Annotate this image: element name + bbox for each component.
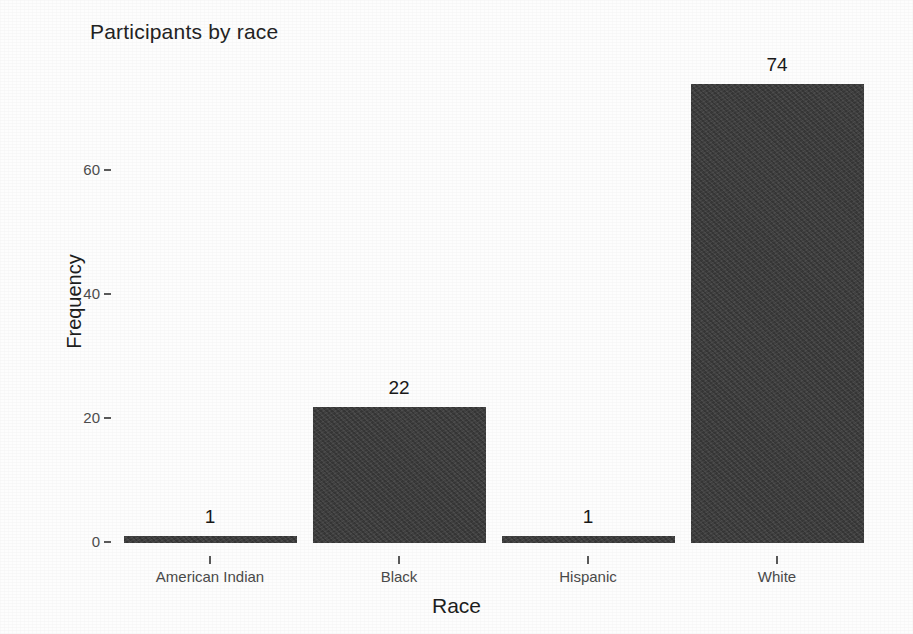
bar-chart-figure: Participants by race Frequency 0 20 40 6… — [0, 0, 913, 634]
y-axis-tick-mark-20 — [104, 417, 111, 419]
y-axis-tick-mark-40 — [104, 293, 111, 295]
y-axis-tick-mark-60 — [104, 169, 111, 171]
x-axis-tick-mark-black — [398, 556, 400, 564]
x-axis-tick-label-black: Black — [381, 568, 418, 585]
x-axis-tick-label-white: White — [758, 568, 796, 585]
x-axis-tick-label-hispanic: Hispanic — [559, 568, 617, 585]
x-axis-tick-mark-white — [776, 556, 778, 564]
y-axis-tick-label-20: 20 — [54, 409, 100, 426]
y-axis-tick-mark-0 — [104, 541, 111, 543]
x-axis-tick-label-american-indian: American Indian — [156, 568, 264, 585]
bar-value-label-black: 22 — [388, 377, 409, 399]
x-axis-tick-mark-american-indian — [209, 556, 211, 564]
y-axis-tick-label-60: 60 — [54, 161, 100, 178]
plot-area: 1 22 1 74 — [113, 18, 900, 543]
y-axis-tick-label-40: 40 — [54, 285, 100, 302]
bar-value-label-hispanic: 1 — [583, 506, 594, 528]
y-axis-tick-label-0: 0 — [54, 533, 100, 550]
x-axis-tick-mark-hispanic — [587, 556, 589, 564]
bar-white — [691, 84, 864, 543]
bar-value-label-white: 74 — [766, 54, 787, 76]
bar-black — [313, 407, 486, 543]
x-axis-title: Race — [0, 594, 913, 618]
bar-hispanic — [502, 536, 675, 543]
bar-american-indian — [124, 536, 297, 543]
bar-value-label-american-indian: 1 — [205, 506, 216, 528]
